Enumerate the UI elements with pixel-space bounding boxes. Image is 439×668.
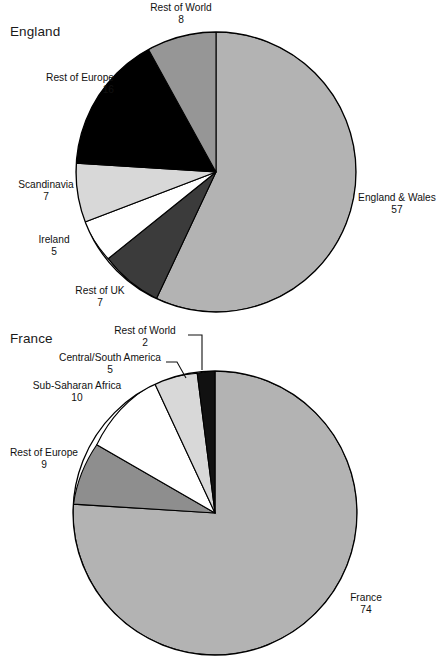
france-callout-france: France 74 (336, 592, 396, 615)
england-callout-rest-of-europe: Rest of Europe 16 (10, 72, 114, 95)
value-text: 2 (102, 337, 188, 349)
france-leader-rest-of-world (188, 335, 202, 370)
value-text: 57 (356, 204, 438, 216)
england-pie-graphic (0, 0, 439, 330)
value-text: 74 (336, 604, 396, 616)
france-callout-rest-of-world: Rest of World 2 (102, 325, 188, 348)
value-text: 8 (128, 14, 234, 26)
france-callout-central-south-america: Central/South America 5 (54, 352, 166, 375)
england-callout-rest-of-world: Rest of World 8 (128, 2, 234, 25)
label-text: Scandinavia (4, 179, 88, 191)
label-text: Rest of Europe (4, 447, 84, 459)
france-callout-rest-of-europe: Rest of Europe 9 (4, 447, 84, 470)
value-text: 9 (4, 459, 84, 471)
england-callout-scandinavia: Scandinavia 7 (4, 179, 88, 202)
value-text: 5 (54, 364, 166, 376)
value-text: 10 (28, 392, 126, 404)
england-pie-chart: England Rest of World (0, 0, 439, 330)
england-callout-ireland: Ireland 5 (22, 234, 86, 257)
label-text: Rest of Europe (10, 72, 114, 84)
label-text: Rest of UK (58, 285, 142, 297)
france-callout-sub-saharan-africa: Sub-Saharan Africa 10 (28, 380, 126, 403)
value-text: 5 (22, 246, 86, 258)
label-text: Rest of World (128, 2, 234, 14)
label-text: Ireland (22, 234, 86, 246)
england-callout-england-wales: England & Wales 57 (356, 192, 438, 215)
label-text: Sub-Saharan Africa (28, 380, 126, 392)
france-pie-chart: France Rest of World (0, 322, 439, 668)
two-pie-chart-figure: England Rest of World (0, 0, 439, 668)
label-text: England & Wales (356, 192, 438, 204)
value-text: 7 (4, 191, 88, 203)
england-callout-rest-of-uk: Rest of UK 7 (58, 285, 142, 308)
label-text: Rest of World (102, 325, 188, 337)
value-text: 16 (10, 84, 114, 96)
label-text: Central/South America (54, 352, 166, 364)
label-text: France (336, 592, 396, 604)
value-text: 7 (58, 297, 142, 309)
